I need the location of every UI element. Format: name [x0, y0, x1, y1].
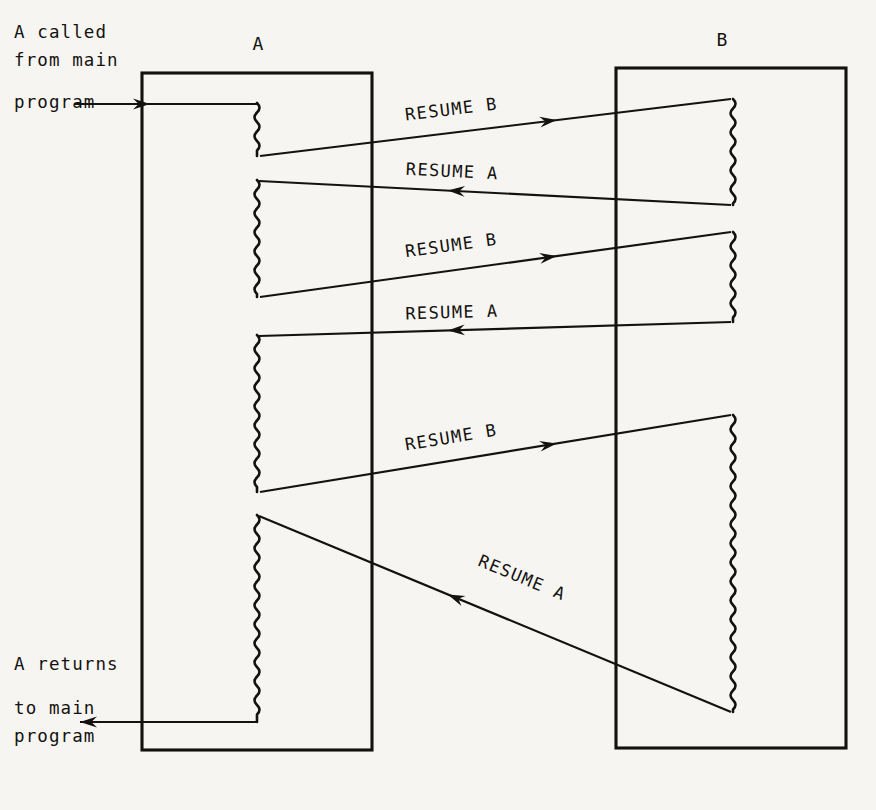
resume-a-1-line	[259, 181, 731, 205]
flow-lines-layer	[74, 99, 736, 728]
resume-b-2-label: RESUME B	[404, 229, 499, 261]
A-active-2	[255, 180, 260, 297]
B-active-2	[731, 232, 736, 322]
exit-note-line-1: A returns	[14, 654, 119, 674]
coroutine-diagram-canvas: A B RESUME BRESUME ARESUME BRESUME ARESU…	[0, 0, 876, 810]
resume-a-3-label: RESUME A	[475, 550, 569, 604]
entry-note-line-3: program	[14, 92, 95, 112]
A-active-3	[255, 335, 260, 492]
entry-note-line-2: from main	[14, 50, 119, 70]
resume-a-2-label: RESUME A	[405, 301, 499, 324]
resume-a-1-label: RESUME A	[405, 159, 499, 184]
transfer-labels-layer: RESUME BRESUME ARESUME BRESUME ARESUME B…	[403, 94, 569, 605]
exit-note-line-2: to main	[14, 698, 95, 718]
coroutine-diagram: A B RESUME BRESUME ARESUME BRESUME ARESU…	[0, 0, 876, 810]
A-active-4	[255, 515, 260, 722]
column-header-b: B	[717, 29, 728, 50]
B-active-1	[731, 99, 736, 205]
A-active-1	[255, 103, 260, 156]
column-header-a: A	[253, 33, 264, 54]
exit-note-line-3: program	[14, 726, 95, 746]
resume-a-3-line	[259, 516, 731, 712]
resume-b-3-label: RESUME B	[403, 420, 498, 455]
resume-a-2-line	[259, 322, 731, 336]
resume-b-1-label: RESUME B	[404, 94, 499, 125]
column-headers: A B	[253, 29, 728, 54]
B-active-3	[731, 415, 736, 712]
entry-note-line-1: A called	[14, 22, 107, 42]
side-notes: A called from main program A returns to …	[14, 22, 119, 746]
